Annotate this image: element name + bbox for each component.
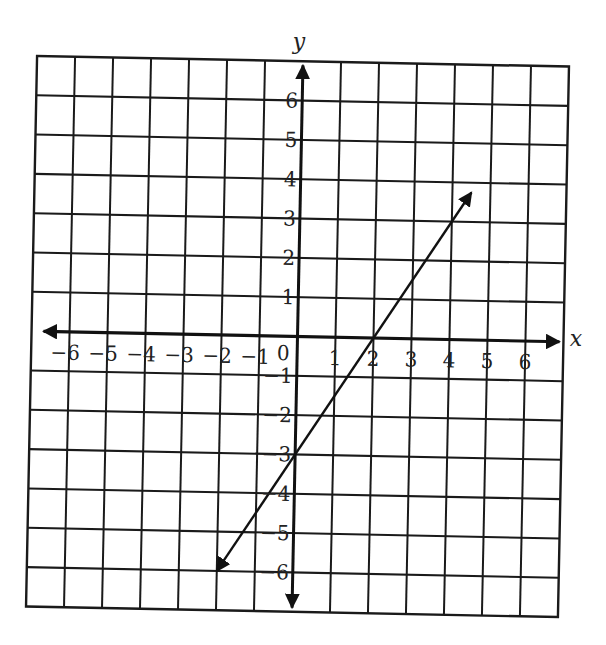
x-tick-label: 6 [518,350,531,375]
y-tick-label: −3 [261,442,291,467]
y-axis-title: y [292,29,306,54]
y-tick-label: 3 [283,206,296,231]
graph-area: −6−5−4−3−2−1123456 −6−5−4−3−2−1123456 0 [26,56,569,617]
y-tick-label: −5 [260,520,290,545]
x-tick-label: −5 [88,341,118,366]
x-tick-label: −4 [126,342,156,367]
origin-label: 0 [277,341,290,366]
coordinate-plane: −6−5−4−3−2−1123456 −6−5−4−3−2−1123456 0 … [0,0,606,645]
x-tick-label: 1 [328,346,341,371]
y-tick-label: −4 [261,481,291,506]
x-axis [44,331,560,341]
y-tick-label: −6 [259,560,289,585]
x-tick-label: 2 [366,347,379,372]
x-tick-label: −3 [164,342,194,367]
y-tick-label: 1 [281,285,294,310]
x-tick-label: −2 [202,343,232,368]
x-tick-label: −6 [50,340,80,365]
y-tick-label: −1 [263,363,293,388]
x-tick-label: 4 [442,348,455,373]
y-tick-label: −2 [262,402,292,427]
y-tick-label: 2 [282,245,295,270]
x-tick-label: 5 [480,349,493,374]
y-tick-label: 6 [285,88,298,113]
y-tick-label: 5 [284,127,297,152]
y-tick-label: 4 [284,167,297,192]
x-axis-title: x [570,326,583,351]
x-tick-label: 3 [404,347,417,372]
